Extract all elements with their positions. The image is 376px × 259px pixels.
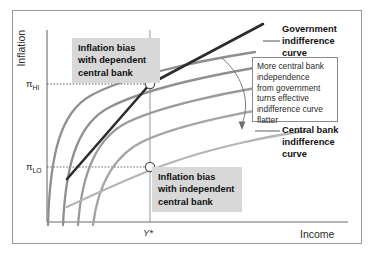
figure-container: Inflation Income πHI πLO Y* Inflation bi… [0,0,376,259]
explanation-box: More central bank independence from gove… [252,57,338,122]
y-axis-title: Inflation [15,13,27,83]
y-tick-label-pi-lo: πLO [26,161,42,174]
note-inflation-bias-independent: Inflation bias with independent central … [152,167,242,212]
label-central-bank-indifference-curve: Central bank indifference curve [282,124,368,160]
y-tick-label-pi-hi: πHI [26,78,39,91]
note-inflation-bias-dependent: Inflation bias with dependent central ba… [72,38,160,83]
pi-subscript-lo: LO [33,167,42,174]
x-axis-title: Income [300,228,334,240]
label-government-indifference-curve: Government indifference curve [282,23,368,59]
pi-subscript-hi: HI [33,84,40,91]
x-tick-label-y-star: Y* [143,227,153,238]
flattening-arrow-head [239,122,246,131]
